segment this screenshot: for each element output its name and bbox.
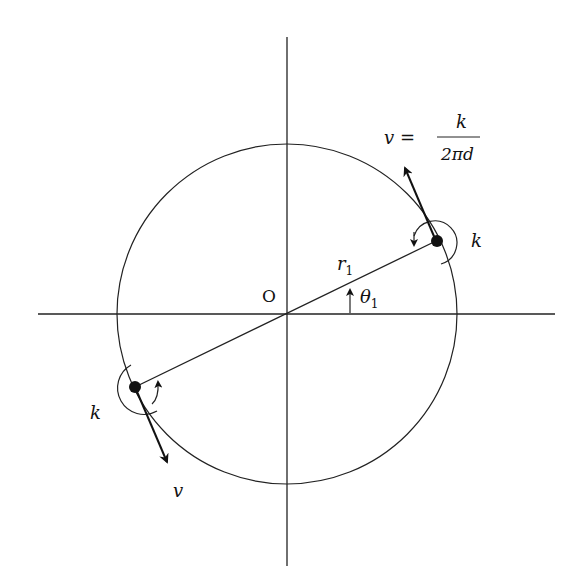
angle-label: θ1 xyxy=(360,286,378,311)
velocity-arrow-left xyxy=(135,387,167,462)
vortex-left xyxy=(118,365,167,462)
velocity-eq-numerator: k xyxy=(456,111,467,132)
vortex-diagram: O r1 θ1 k k v v = k 2πd xyxy=(0,0,576,568)
vortex-point-left xyxy=(129,381,141,393)
velocity-label-left: v xyxy=(173,480,183,501)
velocity-eq-lhs: v = xyxy=(384,127,415,148)
velocity-eq-denominator: 2πd xyxy=(440,144,474,164)
radius-label: r1 xyxy=(337,253,353,278)
origin-label: O xyxy=(262,286,276,306)
vortex-strength-label-left: k xyxy=(90,402,101,423)
vortex-right xyxy=(405,168,457,264)
velocity-arrow-right xyxy=(405,168,436,241)
vortex-point-right xyxy=(431,235,443,247)
circulation-arrow-left xyxy=(152,382,158,404)
vortex-strength-label-right: k xyxy=(471,230,482,251)
